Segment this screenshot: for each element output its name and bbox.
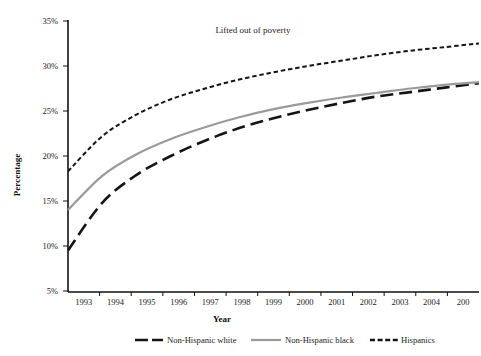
y-tick-label: 20% xyxy=(42,151,58,161)
line-chart: 35% 30% 25% 20% 15% 10% 5% Percentage 19… xyxy=(0,0,481,356)
chart-annotation: Lifted out of poverty xyxy=(215,25,291,35)
x-tick-label: 1993 xyxy=(75,297,92,307)
x-tick-label: 1999 xyxy=(265,297,282,307)
x-tick-label: 2002 xyxy=(360,297,377,307)
y-tick-label: 35% xyxy=(42,16,58,26)
y-tick-label: 25% xyxy=(42,106,58,116)
legend-label-non-hispanic-black: Non-Hispanic black xyxy=(285,335,355,345)
x-tick-label: 1994 xyxy=(107,297,125,307)
x-tick-label: 1998 xyxy=(233,297,250,307)
x-tick-label: 1996 xyxy=(170,297,187,307)
y-tick-label: 15% xyxy=(42,196,58,206)
x-tick-label: 200 xyxy=(457,297,470,307)
legend-label-hispanics: Hispanics xyxy=(401,335,436,345)
y-axis-title: Percentage xyxy=(12,154,22,196)
x-tick-label: 2003 xyxy=(391,297,408,307)
x-axis-title: Year xyxy=(213,314,231,324)
chart-figure: 35% 30% 25% 20% 15% 10% 5% Percentage 19… xyxy=(0,0,481,356)
y-tick-label: 30% xyxy=(42,61,58,71)
y-tick-label: 10% xyxy=(42,241,58,251)
y-tick-label: 5% xyxy=(47,286,58,296)
legend-label-non-hispanic-white: Non-Hispanic white xyxy=(167,335,237,345)
x-tick-label: 1997 xyxy=(202,297,219,307)
x-tick-label: 2000 xyxy=(297,297,314,307)
x-tick-label: 2001 xyxy=(328,297,345,307)
x-tick-label: 1995 xyxy=(139,297,156,307)
x-tick-label: 2004 xyxy=(423,297,441,307)
